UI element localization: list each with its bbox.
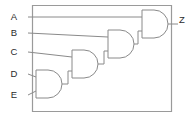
wire-input-c [28, 52, 72, 57]
circuit-boundary-frame [33, 6, 172, 112]
output-label-z: Z [179, 14, 185, 25]
wire-input-b [28, 33, 108, 37]
input-label-c: C [11, 46, 18, 57]
input-label-b: B [11, 27, 17, 38]
wire-gate3-to-gate4 [134, 31, 142, 44]
and-gate-2-body [72, 50, 98, 78]
wire-gate1-to-gate2 [62, 71, 72, 84]
input-label-d: D [11, 68, 18, 79]
and-gate-4-body [142, 10, 168, 38]
wire-gate2-to-gate3 [98, 51, 108, 64]
and-gate-1-body [36, 70, 62, 98]
input-label-e: E [11, 89, 17, 100]
input-label-a: A [11, 11, 18, 22]
and-gate-3-body [108, 30, 134, 58]
circuit-canvas: A B C D E Z [0, 0, 195, 120]
logic-circuit-diagram: A B C D E Z [0, 0, 195, 120]
